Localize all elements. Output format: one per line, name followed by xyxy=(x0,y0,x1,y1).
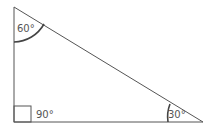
right-angle-marker xyxy=(14,106,31,122)
angle-label-90: 90° xyxy=(36,109,54,120)
angle-label-60: 60° xyxy=(17,23,35,34)
triangle-outline xyxy=(14,7,203,122)
triangle-diagram: 60° 90° 30° xyxy=(0,0,213,132)
angle-label-30: 30° xyxy=(168,109,186,120)
